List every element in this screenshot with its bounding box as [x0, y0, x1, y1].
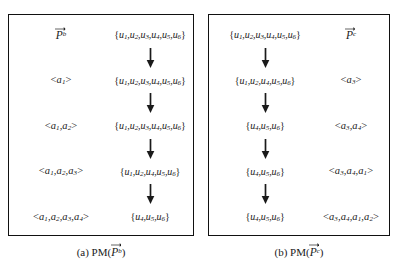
panel-a: Pb {u1,u2,u3,u4,u5,u6} <a1> [8, 14, 194, 236]
panel-b-rows: {u1,u2,u3,u4,u5,u6} Pc [209, 15, 389, 235]
panel-b-arrow-3 [213, 138, 385, 160]
down-arrow-icon [146, 184, 155, 204]
panel-b: {u1,u2,u3,u4,u5,u6} Pc [208, 14, 390, 236]
panel-b-row-3-set: {u4,u5,u6} [213, 121, 317, 131]
panel-a-row-4-set: {u1,u2,u4,u5,u6} [111, 167, 189, 177]
caption-a: (a) PM(Pb) [8, 244, 194, 258]
vector-p-c-base: P [346, 29, 353, 41]
panel-a-row-1-set: {u1,u2,u3,u4,u5,u6} [111, 30, 189, 40]
panel-a-row-2: <a1> {u1,u2,u3,u4,u5,u6} [13, 71, 189, 91]
captions-container: (a) PM(Pb) (b) PM(Pc) [8, 244, 390, 258]
panel-b-row-5-set: {u4,u5,u6} [213, 212, 317, 222]
permutation-matching-figure: Pb {u1,u2,u3,u4,u5,u6} <a1> [0, 0, 398, 279]
caption-a-fn: PM [92, 246, 108, 258]
panel-b-row-1-set: {u1,u2,u3,u4,u5,u6} [213, 30, 317, 40]
panel-a-row-4-label: <a1,a2,a3> [13, 166, 111, 177]
down-arrow-icon [146, 139, 155, 159]
panel-a-arrow-2 [13, 92, 189, 114]
panel-a-row-3-set: {u1,u2,u3,u4,u5,u6} [111, 121, 189, 131]
panel-b-row-4-label: <a3,a4,a1> [317, 166, 385, 177]
vector-p-b-sup: b [63, 30, 67, 38]
caption-a-prefix: (a) [77, 246, 89, 258]
panel-a-row-5-label: <a1,a2,a3,a4> [13, 212, 111, 223]
panel-b-row-5: {u4,u5,u6} <a3,a4,a1,a2> [213, 207, 385, 227]
down-arrow-icon [146, 93, 155, 113]
panel-b-arrow-4 [213, 183, 385, 205]
panel-a-row-2-label: <a1> [13, 75, 111, 86]
caption-a-arg: Pb [111, 244, 122, 258]
panel-b-row-5-label: <a3,a4,a1,a2> [317, 212, 385, 223]
panel-a-rows: Pb {u1,u2,u3,u4,u5,u6} <a1> [9, 15, 193, 235]
panels-container: Pb {u1,u2,u3,u4,u5,u6} <a1> [8, 14, 390, 236]
down-arrow-icon [261, 93, 270, 113]
down-arrow-icon [146, 48, 155, 68]
panel-a-arrow-1 [13, 47, 189, 69]
panel-b-row-1: {u1,u2,u3,u4,u5,u6} Pc [213, 25, 385, 45]
panel-a-row-3: <a1,a2> {u1,u2,u3,u4,u5,u6} [13, 116, 189, 136]
panel-b-row-4: {u4,u5,u6} <a3,a4,a1> [213, 162, 385, 182]
panel-b-arrow-1 [213, 47, 385, 69]
panel-a-row-5: <a1,a2,a3,a4> {u4,u5,u6} [13, 207, 189, 227]
panel-a-row-1-label: Pb [13, 28, 111, 42]
panel-b-row-2-label: <a3> [317, 75, 385, 86]
vector-p-c: Pc [346, 28, 356, 42]
panel-b-row-1-label: Pc [317, 28, 385, 42]
panel-b-row-2: {u1,u2,u4,u5,u6} <a3> [213, 71, 385, 91]
panel-b-row-4-set: {u4,u5,u6} [213, 167, 317, 177]
caption-b: (b) PM(Pc) [208, 244, 390, 258]
panel-a-row-5-set: {u4,u5,u6} [111, 212, 189, 222]
panel-b-row-2-set: {u1,u2,u4,u5,u6} [213, 76, 317, 86]
panel-a-row-1: Pb {u1,u2,u3,u4,u5,u6} [13, 25, 189, 45]
caption-b-fn: PM [290, 246, 306, 258]
panel-a-row-4: <a1,a2,a3> {u1,u2,u4,u5,u6} [13, 162, 189, 182]
panel-a-row-3-label: <a1,a2> [13, 121, 111, 132]
vector-p-c-sup: c [353, 30, 356, 38]
vector-p-b: Pb [56, 28, 67, 42]
panel-b-arrow-2 [213, 92, 385, 114]
caption-b-prefix: (b) [275, 246, 288, 258]
down-arrow-icon [261, 48, 270, 68]
panel-a-arrow-3 [13, 138, 189, 160]
vector-p-b-base: P [56, 29, 63, 41]
panel-a-row-2-set: {u1,u2,u3,u4,u5,u6} [111, 76, 189, 86]
down-arrow-icon [261, 184, 270, 204]
down-arrow-icon [261, 139, 270, 159]
panel-b-row-3: {u4,u5,u6} <a3,a4> [213, 116, 385, 136]
panel-a-arrow-4 [13, 183, 189, 205]
caption-b-arg: Pc [310, 244, 320, 258]
panel-b-row-3-label: <a3,a4> [317, 121, 385, 132]
